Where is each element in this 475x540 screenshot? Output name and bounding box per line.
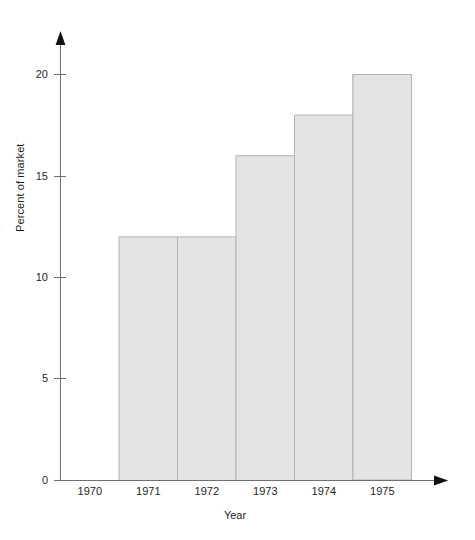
y-axis-title: Percent of market [14, 112, 26, 232]
y-tick-label-10: 10 [22, 272, 48, 283]
bar-1973[interactable] [295, 115, 354, 480]
bar-chart-figure: 20 15 10 5 0 1970 1971 1972 1973 1974 19… [0, 0, 475, 540]
y-axis-arrow-icon [56, 31, 66, 45]
y-tick-label-0: 0 [22, 475, 48, 486]
x-axis-title: Year [0, 509, 470, 521]
y-axis [54, 31, 66, 481]
x-axis-arrow-icon [434, 476, 448, 486]
chart-canvas [0, 0, 475, 540]
bar-1971[interactable] [178, 237, 237, 481]
bar-1970[interactable] [119, 237, 178, 481]
bar-1975[interactable] [353, 75, 412, 481]
x-tick-label-1973: 1973 [235, 486, 295, 497]
x-tick-label-1975: 1975 [352, 486, 412, 497]
x-tick-label-1974: 1974 [294, 486, 354, 497]
y-tick-label-5: 5 [22, 373, 48, 384]
bar-1972[interactable] [236, 156, 295, 481]
y-tick-label-20: 20 [22, 69, 48, 80]
bars-group [119, 75, 412, 481]
x-tick-label-1972: 1972 [177, 486, 237, 497]
x-tick-label-1971: 1971 [118, 486, 178, 497]
x-tick-label-1970: 1970 [60, 486, 120, 497]
